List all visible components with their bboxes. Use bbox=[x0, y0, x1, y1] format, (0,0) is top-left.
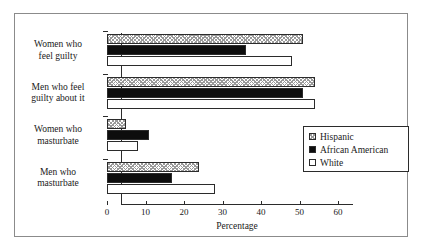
category-label-line: masturbate bbox=[15, 136, 101, 148]
chart-legend: HispanicAfrican AmericanWhite bbox=[303, 126, 409, 172]
x-tick-label-30: 30 bbox=[211, 207, 235, 218]
legend-label-2: White bbox=[320, 158, 343, 168]
x-axis-line bbox=[121, 204, 353, 205]
bar-white-2 bbox=[107, 141, 138, 151]
bar-african-1 bbox=[107, 88, 303, 98]
bar-hispanic-1 bbox=[107, 77, 315, 87]
category-label-line: Men who bbox=[15, 167, 101, 179]
legend-swatch-african-icon bbox=[309, 146, 316, 153]
figure-frame: 0102030405060 Women whofeel guiltyMen wh… bbox=[14, 13, 408, 237]
bar-african-2 bbox=[107, 130, 149, 140]
x-tick-label-0: 0 bbox=[95, 207, 119, 218]
bar-african-3 bbox=[107, 173, 172, 183]
bar-hispanic-3 bbox=[107, 162, 199, 172]
x-tick-label-40: 40 bbox=[249, 207, 273, 218]
category-label-line: masturbate bbox=[15, 178, 101, 190]
bar-white-3 bbox=[107, 184, 215, 194]
category-label-2: Women whomasturbate bbox=[15, 124, 101, 147]
category-label-0: Women whofeel guilty bbox=[15, 39, 101, 62]
category-label-1: Men who feelguilty about it bbox=[15, 82, 101, 105]
legend-label-0: Hispanic bbox=[320, 132, 354, 142]
legend-swatch-hispanic-icon bbox=[309, 133, 316, 140]
legend-row-0[interactable]: Hispanic bbox=[309, 130, 408, 143]
category-label-3: Men whomasturbate bbox=[15, 167, 101, 190]
category-label-line: Women who bbox=[15, 124, 101, 136]
bar-hispanic-2 bbox=[107, 119, 126, 129]
category-label-line: Women who bbox=[15, 39, 101, 51]
bar-white-0 bbox=[107, 56, 292, 66]
x-tick-label-10: 10 bbox=[134, 207, 158, 218]
x-tick-label-60: 60 bbox=[326, 207, 350, 218]
x-tick-label-20: 20 bbox=[172, 207, 196, 218]
x-tick-0 bbox=[107, 201, 108, 205]
bar-african-0 bbox=[107, 45, 246, 55]
legend-swatch-white-icon bbox=[309, 159, 316, 166]
x-axis-title: Percentage bbox=[121, 221, 353, 231]
legend-row-2[interactable]: White bbox=[309, 156, 408, 169]
legend-label-1: African American bbox=[320, 145, 388, 155]
legend-row-1[interactable]: African American bbox=[309, 143, 408, 156]
category-label-line: Men who feel bbox=[15, 82, 101, 94]
y-tick-1 bbox=[103, 74, 108, 75]
y-tick-0 bbox=[103, 31, 108, 32]
y-tick-3 bbox=[103, 159, 108, 160]
bar-hispanic-0 bbox=[107, 34, 303, 44]
category-label-line: guilty about it bbox=[15, 93, 101, 105]
category-label-line: feel guilty bbox=[15, 51, 101, 63]
x-tick-label-50: 50 bbox=[288, 207, 312, 218]
bar-white-1 bbox=[107, 99, 315, 109]
y-tick-2 bbox=[103, 116, 108, 117]
